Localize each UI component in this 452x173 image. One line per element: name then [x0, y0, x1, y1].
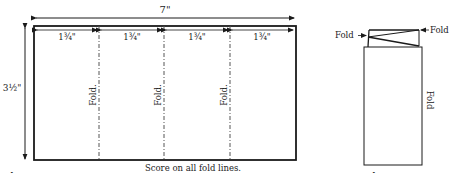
fold-diagram: 7" 3½" 1¾" 1¾" 1¾" 1¾" Fold. Fold. Fold.… [0, 0, 452, 173]
height-dimension: 3½" [3, 28, 25, 159]
height-label: 3½" [3, 83, 22, 93]
panel-label-2: 1¾" [123, 32, 141, 42]
figure-a: 7" 3½" 1¾" 1¾" 1¾" 1¾" Fold. Fold. Fold.… [2, 4, 296, 173]
figure-a-title: Figure A [2, 171, 55, 173]
width-dimension: 7" [36, 4, 294, 18]
panel-label-4: 1¾" [253, 32, 271, 42]
width-label: 7" [160, 4, 171, 15]
card-outline [34, 26, 296, 160]
folded-card-body [364, 47, 422, 165]
panel-label-1: 1¾" [58, 32, 76, 42]
figure-b-title: Figure B [364, 171, 418, 173]
fold-label-1: Fold. [88, 84, 98, 105]
figure-b: Fold Fold Fold Figure B [335, 25, 449, 173]
fold-label-3: Fold. [219, 84, 229, 105]
panel-label-3: 1¾" [188, 32, 206, 42]
fold-left-label: Fold [335, 30, 354, 40]
fold-right-label: Fold [430, 25, 449, 35]
fold-side-label: Fold [425, 91, 435, 110]
fold-label-2: Fold. [153, 84, 163, 105]
z-fold-flaps [368, 30, 419, 47]
score-caption: Score on all fold lines. [145, 163, 241, 173]
